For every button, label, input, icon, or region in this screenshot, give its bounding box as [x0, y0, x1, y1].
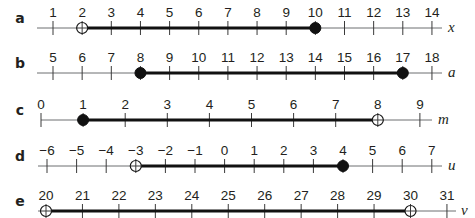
- variable-label: m: [438, 111, 449, 127]
- tick-label: 2: [78, 5, 86, 20]
- tick-label: 11: [221, 50, 235, 65]
- tick-label: 25: [221, 188, 236, 203]
- tick-label: −5: [69, 143, 84, 158]
- tick-label: 20: [38, 188, 53, 203]
- tick-label: 2: [280, 143, 288, 158]
- tick-label: −1: [187, 143, 202, 158]
- part-label: a: [15, 10, 24, 26]
- tick-label: 5: [369, 143, 377, 158]
- tick-label: 13: [395, 5, 410, 20]
- tick-label: 3: [108, 5, 116, 20]
- variable-label: x: [447, 19, 455, 35]
- part-label: d: [15, 148, 25, 164]
- tick-label: 12: [250, 50, 265, 65]
- tick-label: 26: [257, 188, 272, 203]
- tick-label: 0: [37, 97, 45, 112]
- tick-label: 18: [424, 50, 439, 65]
- tick-label: 5: [248, 97, 256, 112]
- closed-dot-endpoint: [135, 68, 146, 79]
- tick-label: 15: [337, 50, 352, 65]
- number-line-d: d−6−5−4−3−2−101234567u: [15, 143, 456, 173]
- tick-label: 1: [49, 5, 57, 20]
- number-line-e: e202122232425262728293031v: [15, 188, 468, 218]
- tick-label: 6: [398, 143, 406, 158]
- tick-label: 21: [75, 188, 90, 203]
- tick-label: 10: [308, 5, 323, 20]
- tick-label: 7: [428, 143, 436, 158]
- tick-label: 24: [184, 188, 200, 203]
- tick-label: 8: [137, 50, 145, 65]
- tick-label: 11: [337, 5, 351, 20]
- tick-label: −6: [39, 143, 54, 158]
- tick-label: 17: [395, 50, 410, 65]
- tick-label: 5: [49, 50, 57, 65]
- closed-dot-endpoint: [78, 115, 89, 126]
- tick-label: −3: [128, 143, 143, 158]
- tick-label: 1: [250, 143, 258, 158]
- tick-label: 31: [439, 188, 454, 203]
- closed-dot-endpoint: [397, 68, 408, 79]
- tick-label: 7: [224, 5, 232, 20]
- variable-label: u: [448, 157, 456, 173]
- closed-dot-endpoint: [310, 23, 321, 34]
- tick-label: 14: [308, 50, 324, 65]
- part-label: c: [16, 102, 24, 118]
- tick-label: 4: [339, 143, 347, 158]
- variable-label: v: [461, 202, 468, 218]
- tick-label: 3: [310, 143, 318, 158]
- tick-label: 8: [253, 5, 261, 20]
- tick-label: 23: [148, 188, 163, 203]
- tick-label: 8: [374, 97, 382, 112]
- tick-label: 14: [424, 5, 440, 20]
- number-line-a: a1234567891011121314x: [15, 5, 455, 35]
- tick-label: 4: [206, 97, 214, 112]
- tick-label: 4: [137, 5, 145, 20]
- tick-label: 10: [191, 50, 206, 65]
- tick-label: 9: [166, 50, 174, 65]
- tick-label: 30: [403, 188, 418, 203]
- tick-label: 13: [279, 50, 294, 65]
- tick-label: 7: [108, 50, 116, 65]
- closed-dot-endpoint: [338, 161, 349, 172]
- tick-label: 27: [294, 188, 309, 203]
- tick-label: 9: [282, 5, 290, 20]
- tick-label: 16: [366, 50, 381, 65]
- variable-label: a: [448, 64, 456, 80]
- tick-label: 5: [166, 5, 174, 20]
- tick-label: 1: [79, 97, 87, 112]
- tick-label: 6: [290, 97, 298, 112]
- part-label: b: [15, 55, 25, 71]
- tick-label: 28: [330, 188, 345, 203]
- tick-label: 6: [195, 5, 203, 20]
- tick-label: 6: [78, 50, 86, 65]
- tick-label: 22: [111, 188, 126, 203]
- number-line-b: b56789101112131415161718a: [15, 50, 456, 80]
- tick-label: 9: [416, 97, 424, 112]
- number-line-c: c0123456789m: [16, 97, 449, 127]
- tick-label: 3: [164, 97, 172, 112]
- tick-label: 7: [332, 97, 340, 112]
- tick-label: 2: [121, 97, 129, 112]
- tick-label: 29: [367, 188, 382, 203]
- tick-label: 12: [366, 5, 381, 20]
- tick-label: −4: [98, 143, 114, 158]
- tick-label: −2: [158, 143, 173, 158]
- part-label: e: [15, 193, 25, 209]
- tick-label: 0: [221, 143, 229, 158]
- number-line-diagram: a1234567891011121314xb567891011121314151…: [0, 0, 475, 218]
